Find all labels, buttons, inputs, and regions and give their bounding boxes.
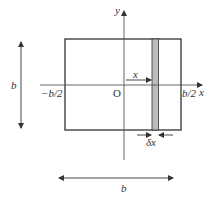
x-axis-label: x — [198, 86, 204, 98]
distance-x-label: x — [132, 68, 138, 80]
right-bound-label: b/2 — [182, 87, 197, 99]
delta-x-label: δx — [146, 136, 156, 148]
thin-strip — [152, 39, 159, 130]
width-dimension-label: b — [121, 182, 127, 194]
height-dimension-label: b — [11, 79, 17, 91]
origin-label: O — [113, 87, 121, 99]
left-bound-label: −b/2 — [41, 87, 63, 99]
diagram-canvas: y x O −b/2 b/2 x δx b b — [0, 0, 218, 197]
y-axis-label: y — [114, 4, 120, 16]
square-plate — [65, 39, 181, 130]
